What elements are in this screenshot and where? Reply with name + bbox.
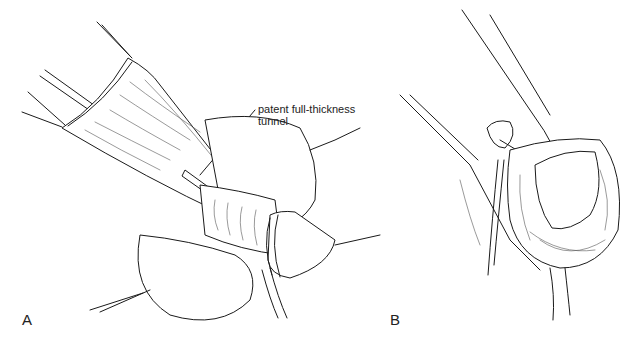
panel-label-b: B — [390, 311, 400, 328]
panel-label-a: A — [22, 311, 32, 328]
callout-line-1: patent full-thickness — [258, 103, 355, 115]
tunnel-callout: patent full-thickness tunnel — [258, 103, 355, 127]
panel-b-drawing — [0, 0, 637, 338]
callout-line-2: tunnel — [258, 115, 355, 127]
surgical-illustration-figure: patent full-thickness tunnel A B — [0, 0, 637, 338]
